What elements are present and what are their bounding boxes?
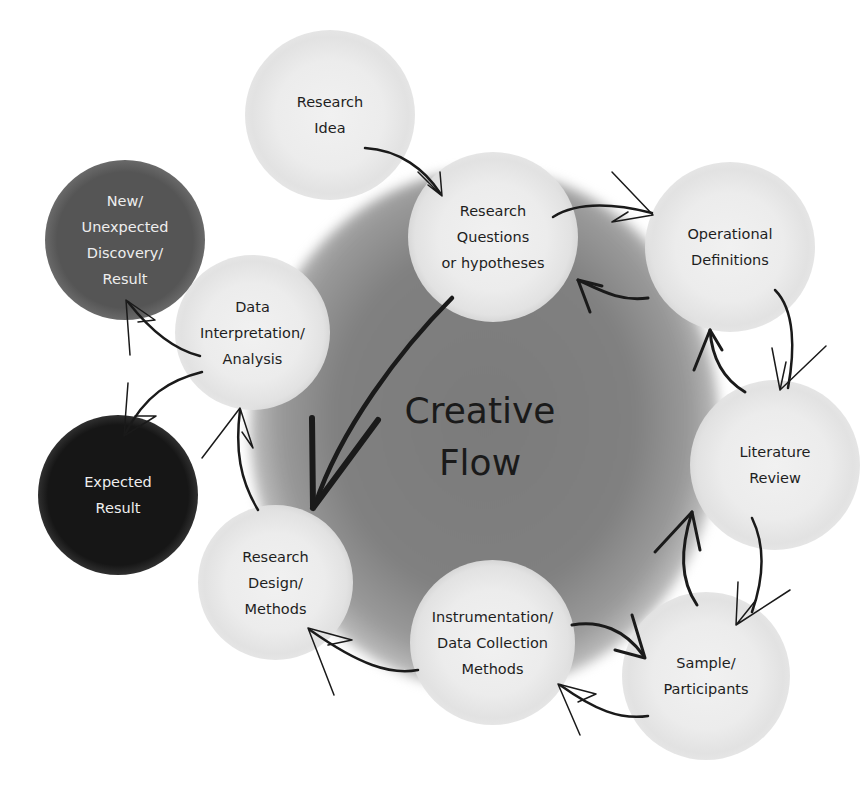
node-expected-result: Expected Result [38, 415, 198, 575]
node-label: Research Idea [297, 89, 364, 141]
node-research-design: Research Design/ Methods [198, 505, 353, 660]
node-label: Operational Definitions [687, 221, 772, 273]
center-title: Creative Flow [380, 385, 580, 489]
node-literature-review: Literature Review [690, 380, 860, 550]
node-research-idea: Research Idea [245, 30, 415, 200]
node-label: Data Interpretation/ Analysis [200, 294, 305, 372]
node-label: Sample/ Participants [663, 650, 748, 702]
node-research-questions: Research Questions or hypotheses [408, 152, 578, 322]
node-instrumentation: Instrumentation/ Data Collection Methods [410, 560, 575, 725]
node-new-discovery: New/ Unexpected Discovery/ Result [45, 160, 205, 320]
node-label: New/ Unexpected Discovery/ Result [82, 188, 169, 292]
node-sample-participants: Sample/ Participants [622, 592, 790, 760]
center-title-line2: Flow [380, 437, 580, 489]
node-label: Instrumentation/ Data Collection Methods [432, 604, 553, 682]
node-label: Research Questions or hypotheses [441, 198, 544, 276]
node-operational-definitions: Operational Definitions [645, 162, 815, 332]
node-label: Expected Result [84, 469, 152, 521]
node-label: Literature Review [740, 439, 811, 491]
node-label: Research Design/ Methods [242, 544, 309, 622]
creative-flow-diagram: Creative Flow Research Idea Research Que… [0, 0, 863, 793]
node-data-interpretation: Data Interpretation/ Analysis [175, 255, 330, 410]
center-title-line1: Creative [380, 385, 580, 437]
